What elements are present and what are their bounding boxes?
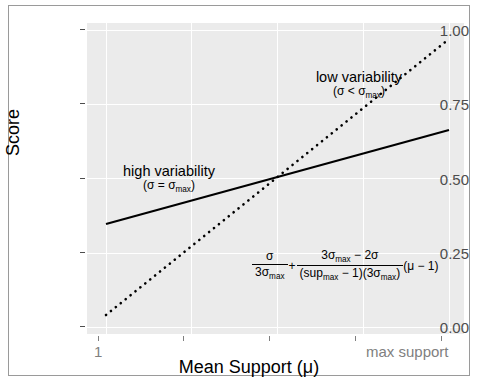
x-tick-mark-1 (98, 336, 99, 341)
y-tick-label-0.25: 0.25 (401, 245, 469, 262)
formula-term1-numerator: σ (252, 250, 288, 264)
y-tick-mark-1.00 (80, 29, 85, 30)
y-tick-label-0.00: 0.00 (401, 319, 469, 336)
x-tick-mark-2 (183, 336, 184, 341)
formula-term1-denominator: 3σmax (252, 264, 288, 282)
y-axis-title: Score (3, 109, 24, 156)
x-tick-mark-3 (269, 336, 270, 341)
y-tick-label-0.50: 0.50 (401, 171, 469, 188)
y-tick-mark-0.75 (80, 103, 85, 104)
y-tick-label-0.75: 0.75 (401, 96, 469, 113)
y-tick-mark-0.25 (80, 252, 85, 253)
y-tick-label-1.00: 1.00 (401, 22, 469, 39)
annotation-low-main: low variability (294, 69, 424, 85)
x-axis-title: Mean Support (μ) (9, 357, 480, 378)
y-tick-mark-0.00 (80, 326, 85, 327)
formula-term2-numerator: 3σmax − 2σ (297, 249, 404, 265)
formula-term-2: 3σmax − 2σ (supmax − 1)(3σmax) (297, 249, 404, 283)
formula-plus-operator: + (288, 259, 297, 273)
y-tick-mark-0.50 (80, 178, 85, 179)
formula-term-1: σ 3σmax (252, 250, 288, 282)
x-tick-mark-4 (355, 336, 356, 341)
annotation-high-variability: high variability (σ = σmax) (104, 163, 234, 195)
annotation-high-main: high variability (104, 163, 234, 179)
x-tick-mark-5 (441, 336, 442, 341)
annotation-high-sub: (σ = σmax) (104, 179, 234, 195)
figure-frame: low variability (σ < σmax) high variabil… (8, 5, 470, 376)
formula-term2-denominator: (supmax − 1)(3σmax) (297, 265, 404, 283)
